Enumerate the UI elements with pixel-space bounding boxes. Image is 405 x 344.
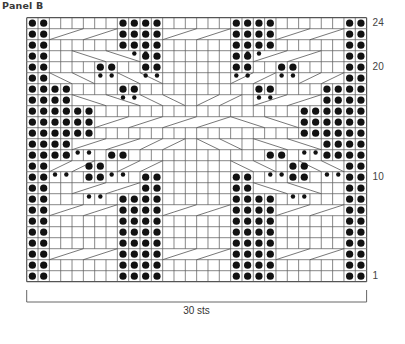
purl-dot	[51, 119, 58, 126]
purl-dot	[40, 64, 47, 71]
purl-marker	[143, 51, 147, 55]
purl-dot	[357, 86, 364, 93]
purl-dot	[40, 20, 47, 27]
purl-marker	[75, 150, 79, 154]
purl-dot	[29, 273, 36, 280]
purl-dot	[267, 20, 274, 27]
cable-cross	[72, 95, 140, 106]
purl-dot	[74, 119, 81, 126]
cable-cross	[72, 51, 140, 62]
cable-cross	[253, 95, 321, 106]
purl-dot	[131, 229, 138, 236]
purl-dot	[63, 86, 70, 93]
purl-marker	[121, 95, 125, 99]
purl-dot	[153, 53, 160, 60]
purl-dot	[346, 273, 353, 280]
purl-dot	[244, 240, 251, 247]
purl-marker	[279, 172, 283, 176]
purl-dot	[357, 196, 364, 203]
purl-dot	[153, 185, 160, 192]
purl-dot	[323, 141, 330, 148]
purl-dot	[233, 207, 240, 214]
purl-dot	[357, 207, 364, 214]
purl-dot	[29, 251, 36, 258]
purl-dot	[233, 229, 240, 236]
row-number-label: 24	[373, 17, 384, 28]
purl-dot	[119, 240, 126, 247]
purl-dot	[142, 174, 149, 181]
row-number-label: 20	[373, 61, 384, 72]
purl-dot	[335, 130, 342, 137]
purl-dot	[255, 31, 262, 38]
purl-dot	[40, 31, 47, 38]
purl-dot	[29, 141, 36, 148]
purl-dot	[85, 119, 92, 126]
purl-dot	[131, 86, 138, 93]
purl-dot	[63, 97, 70, 104]
purl-dot	[40, 174, 47, 181]
purl-dot	[357, 185, 364, 192]
purl-dot	[29, 262, 36, 269]
purl-dot	[323, 108, 330, 115]
purl-dot	[142, 251, 149, 258]
purl-dot	[289, 64, 296, 71]
purl-dot	[244, 207, 251, 214]
purl-dot	[346, 240, 353, 247]
purl-dot	[119, 196, 126, 203]
purl-dot	[346, 20, 353, 27]
purl-dot	[119, 251, 126, 258]
row-number-label: 10	[373, 171, 384, 182]
purl-dot	[119, 42, 126, 49]
purl-dot	[119, 207, 126, 214]
purl-dot	[301, 130, 308, 137]
purl-dot	[312, 108, 319, 115]
purl-marker	[336, 172, 340, 176]
purl-dot	[244, 273, 251, 280]
purl-dot	[267, 229, 274, 236]
purl-dot	[335, 141, 342, 148]
purl-marker	[132, 51, 136, 55]
purl-dot	[40, 42, 47, 49]
purl-dot	[267, 262, 274, 269]
purl-dot	[142, 20, 149, 27]
purl-dot	[357, 130, 364, 137]
cable-cross	[276, 29, 344, 40]
purl-dot	[346, 163, 353, 170]
purl-dot	[346, 75, 353, 82]
purl-dot	[85, 108, 92, 115]
purl-dot	[357, 273, 364, 280]
purl-dot	[346, 174, 353, 181]
purl-dot	[346, 86, 353, 93]
purl-dot	[267, 240, 274, 247]
purl-dot	[153, 42, 160, 49]
purl-dot	[63, 119, 70, 126]
purl-dot	[233, 20, 240, 27]
purl-dot	[346, 141, 353, 148]
purl-dot	[244, 64, 251, 71]
purl-dot	[346, 196, 353, 203]
purl-marker	[143, 73, 147, 77]
purl-dot	[233, 262, 240, 269]
purl-dot	[357, 251, 364, 258]
purl-dot	[85, 163, 92, 170]
cable-cross	[140, 95, 185, 106]
purl-dot	[29, 218, 36, 225]
purl-dot	[29, 86, 36, 93]
purl-dot	[267, 196, 274, 203]
cable-cross	[95, 117, 163, 128]
purl-dot	[346, 53, 353, 60]
knitting-chart	[0, 0, 405, 344]
purl-dot	[233, 240, 240, 247]
purl-dot	[255, 240, 262, 247]
row-number-label: 1	[373, 270, 379, 281]
purl-dot	[131, 196, 138, 203]
purl-dot	[233, 185, 240, 192]
purl-dot	[244, 218, 251, 225]
purl-dot	[346, 251, 353, 258]
purl-dot	[142, 31, 149, 38]
purl-dot	[142, 229, 149, 236]
purl-marker	[268, 172, 272, 176]
purl-dot	[267, 218, 274, 225]
purl-dot	[301, 163, 308, 170]
purl-dot	[131, 31, 138, 38]
